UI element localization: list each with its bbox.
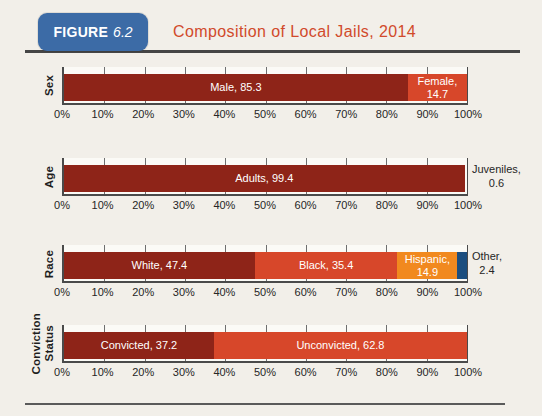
stacked-bar: White, 47.4Black, 35.4Hispanic, 14.9 [64, 252, 467, 279]
axis-tick-label: 100% [454, 366, 482, 378]
axis-tick-label: 100% [454, 286, 482, 298]
category-label-container: Age [0, 158, 63, 196]
axis-tick-label: 30% [173, 366, 195, 378]
axis-tick-label: 20% [132, 108, 154, 120]
bar-segment-hispanic: Hispanic, 14.9 [397, 252, 457, 279]
bar-segment-white: White, 47.4 [64, 252, 255, 279]
chart-sex: Sex Male, 85.3Female, 14.7 0%10%20%30%40… [0, 67, 542, 125]
bar-segment-unconvicted: Unconvicted, 62.8 [214, 332, 467, 359]
axis-tick-label: 30% [173, 108, 195, 120]
bottom-rule [25, 403, 505, 405]
axis-tick-label: 30% [173, 199, 195, 211]
plot-area: Adults, 99.4 [62, 158, 468, 196]
axis-tick-label: 0% [54, 199, 70, 211]
axis-tick-label: 40% [213, 286, 235, 298]
figure-badge-number: 6.2 [113, 24, 132, 40]
axis-tick-label: 60% [295, 286, 317, 298]
axis-tick-label: 80% [376, 199, 398, 211]
axis-tick-label: 90% [416, 199, 438, 211]
axis-tick-label: 0% [54, 108, 70, 120]
bar-segment-label: Unconvicted, 62.8 [295, 339, 385, 351]
figure-page: FIGURE 6.2 Composition of Local Jails, 2… [0, 0, 542, 416]
axis-tick-label: 80% [376, 366, 398, 378]
bar-segment-label: Female, 14.7 [408, 75, 467, 99]
axis-tick-label: 10% [92, 286, 114, 298]
axis-tick-label: 70% [335, 286, 357, 298]
plot-area: Male, 85.3Female, 14.7 [62, 67, 468, 105]
axis-tick-label: 90% [416, 286, 438, 298]
axis-tick-label: 10% [92, 199, 114, 211]
axis-tick-label: 50% [254, 199, 276, 211]
category-label: Race [43, 250, 56, 278]
axis-tick-label: 80% [376, 108, 398, 120]
axis-tick-label: 60% [295, 366, 317, 378]
axis-tick-label: 30% [173, 286, 195, 298]
category-label-container: Race [0, 245, 63, 283]
axis-tick-label: 100% [454, 108, 482, 120]
figure-badge-label: FIGURE [53, 24, 108, 40]
x-axis-labels: 0%10%20%30%40%50%60%70%80%90%100% [62, 108, 468, 123]
bar-segment-black: Black, 35.4 [255, 252, 398, 279]
axis-tick-label: 50% [254, 366, 276, 378]
axis-tick-label: 70% [335, 199, 357, 211]
axis-tick-label: 20% [132, 366, 154, 378]
axis-tick-label: 0% [54, 366, 70, 378]
axis-tick-label: 60% [295, 108, 317, 120]
axis-tick-label: 20% [132, 286, 154, 298]
plot-area: White, 47.4Black, 35.4Hispanic, 14.9 [62, 245, 468, 283]
chart-race: Race White, 47.4Black, 35.4Hispanic, 14.… [0, 245, 542, 303]
stacked-bar: Adults, 99.4 [64, 165, 467, 192]
plot-area: Convicted, 37.2Unconvicted, 62.8 [62, 325, 468, 363]
axis-tick-label: 10% [92, 366, 114, 378]
x-axis-labels: 0%10%20%30%40%50%60%70%80%90%100% [62, 366, 468, 381]
bar-segment-convicted: Convicted, 37.2 [64, 332, 214, 359]
stacked-bar: Male, 85.3Female, 14.7 [64, 74, 467, 101]
bar-segment-female: Female, 14.7 [408, 74, 467, 101]
axis-tick-label: 90% [416, 366, 438, 378]
bar-segment-label: Convicted, 37.2 [100, 339, 178, 351]
axis-tick-label: 70% [335, 366, 357, 378]
axis-tick-label: 100% [454, 199, 482, 211]
axis-tick-label: 50% [254, 286, 276, 298]
figure-header: FIGURE 6.2 Composition of Local Jails, 2… [38, 13, 520, 51]
bar-segment-label: White, 47.4 [131, 259, 189, 271]
axis-tick-label: 80% [376, 286, 398, 298]
axis-tick-label: 20% [132, 199, 154, 211]
chart-conviction-status: Conviction Status Convicted, 37.2Unconvi… [0, 325, 542, 383]
figure-badge: FIGURE 6.2 [38, 13, 148, 51]
bar-segment-adults: Adults, 99.4 [64, 165, 465, 192]
category-label: Conviction Status [30, 313, 56, 374]
category-label: Age [43, 166, 56, 188]
outside-segment-label: Juveniles, 0.6 [472, 158, 536, 196]
bar-segment-label: Black, 35.4 [298, 259, 354, 271]
axis-tick-label: 40% [213, 366, 235, 378]
bar-segment-other [457, 252, 467, 279]
bar-segment-label: Adults, 99.4 [234, 172, 294, 184]
bar-segment-label: Male, 85.3 [209, 81, 262, 93]
category-label-container: Sex [0, 67, 63, 105]
axis-tick-label: 60% [295, 199, 317, 211]
axis-tick-label: 50% [254, 108, 276, 120]
x-axis-labels: 0%10%20%30%40%50%60%70%80%90%100% [62, 199, 468, 214]
axis-tick-label: 0% [54, 286, 70, 298]
category-label-container: Conviction Status [0, 325, 63, 363]
axis-tick-label: 40% [213, 199, 235, 211]
axis-tick-label: 70% [335, 108, 357, 120]
stacked-bar: Convicted, 37.2Unconvicted, 62.8 [64, 332, 467, 359]
axis-tick-label: 10% [92, 108, 114, 120]
bar-segment-juveniles [465, 165, 467, 192]
outside-segment-label: Other, 2.4 [472, 245, 536, 283]
bar-segment-label: Hispanic, 14.9 [397, 253, 457, 277]
chart-age: Age Adults, 99.4 0%10%20%30%40%50%60%70%… [0, 158, 542, 216]
x-axis-labels: 0%10%20%30%40%50%60%70%80%90%100% [62, 286, 468, 301]
bar-segment-male: Male, 85.3 [64, 74, 408, 101]
axis-tick-label: 90% [416, 108, 438, 120]
axis-tick-label: 40% [213, 108, 235, 120]
category-label: Sex [43, 75, 56, 96]
figure-title: Composition of Local Jails, 2014 [173, 23, 416, 41]
